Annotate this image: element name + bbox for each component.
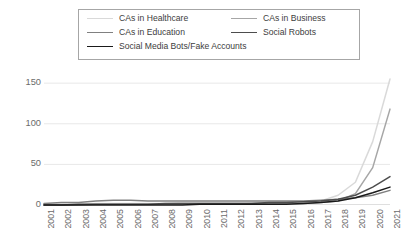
x-tick-label: 2011 (220, 209, 229, 228)
data-series-lines (44, 75, 390, 205)
x-tick-label: 2016 (307, 209, 316, 229)
chart-legend: CAs in HealthcareCAs in BusinessCAs in E… (78, 9, 360, 60)
x-tick-label: 2018 (341, 209, 350, 229)
legend-item[interactable]: CAs in Healthcare (87, 14, 188, 23)
x-tick-label: 2009 (185, 209, 194, 229)
legend-label: CAs in Healthcare (119, 14, 188, 23)
y-tick-label: 100 (1, 119, 41, 128)
legend-swatch-line-icon (231, 32, 257, 33)
y-tick-label: 50 (1, 159, 41, 168)
x-tick-label: 2013 (255, 209, 264, 229)
legend-label: Social Robots (263, 28, 316, 37)
legend-swatch-line-icon (87, 18, 113, 19)
legend-item[interactable]: Social Robots (231, 28, 316, 37)
x-tick-label: 2015 (289, 209, 298, 229)
x-tick-label: 2014 (272, 209, 281, 229)
x-tick-label: 2020 (376, 209, 385, 229)
y-axis: 050100150 (0, 0, 41, 248)
legend-item[interactable]: Social Media Bots/Fake Accounts (87, 42, 247, 51)
x-tick-label: 2017 (324, 209, 333, 229)
legend-item[interactable]: CAs in Education (87, 28, 185, 37)
y-tick-label: 150 (1, 78, 41, 87)
series-line-0 (44, 79, 390, 204)
x-tick-label: 2019 (358, 209, 367, 229)
chart-figure: CAs in HealthcareCAs in BusinessCAs in E… (0, 0, 408, 248)
legend-swatch-line-icon (87, 46, 113, 47)
series-line-1 (44, 109, 390, 205)
legend-label: Social Media Bots/Fake Accounts (119, 42, 247, 51)
x-tick-label: 2008 (168, 209, 177, 229)
legend-item[interactable]: CAs in Business (231, 14, 326, 23)
plot-area (44, 75, 390, 205)
x-tick-label: 2006 (134, 209, 143, 229)
x-tick-label: 2003 (82, 209, 91, 229)
x-tick-label: 2012 (237, 209, 246, 229)
legend-swatch-line-icon (87, 32, 113, 33)
x-tick-label: 2005 (116, 209, 125, 229)
x-tick-label: 2004 (99, 209, 108, 229)
x-tick-label: 2021 (393, 209, 402, 229)
y-tick-label: 0 (1, 200, 41, 209)
x-axis: 2001200220032004200520062007200820092010… (44, 207, 390, 248)
x-tick-label: 2007 (151, 209, 160, 229)
x-tick-label: 2001 (47, 209, 56, 229)
x-tick-label: 2002 (64, 209, 73, 229)
legend-label: CAs in Business (263, 14, 326, 23)
legend-label: CAs in Education (119, 28, 185, 37)
x-tick-label: 2010 (203, 209, 212, 229)
legend-swatch-line-icon (231, 18, 257, 19)
